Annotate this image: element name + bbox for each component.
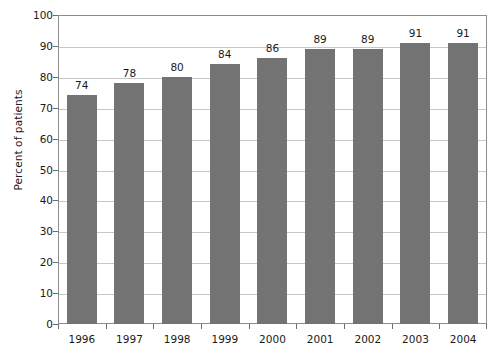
x-tick-label: 1999 [201,333,249,345]
x-tick-mark [58,324,59,329]
bar [257,58,287,324]
bar [210,64,240,324]
x-tick-label: 2003 [392,333,440,345]
bar [114,83,144,324]
bar [448,43,478,324]
y-tick-label: 30 [9,226,53,236]
y-tick-label: 0 [9,319,53,329]
x-tick-mark [201,324,202,329]
y-tick-label: 70 [9,103,53,113]
x-tick-mark [106,324,107,329]
y-tick-label: 40 [9,195,53,205]
bar [400,43,430,324]
x-tick-label: 2004 [439,333,487,345]
bar-value-label: 89 [313,34,326,45]
x-axis: 199619971998199920002001200220032004 [58,324,487,348]
x-tick-mark [392,324,393,329]
bar [162,77,192,324]
bar-value-label: 78 [123,68,136,79]
bar-group: 89 [296,15,344,324]
bar-group: 84 [201,15,249,324]
bar-group: 89 [344,15,392,324]
y-tick-label: 50 [9,165,53,175]
bar-group: 80 [153,15,201,324]
x-tick-label: 1998 [153,333,201,345]
y-tick-label: 100 [9,10,53,20]
x-tick-label: 1996 [58,333,106,345]
x-tick-mark [249,324,250,329]
bar [67,95,97,324]
bar-value-label: 89 [361,34,374,45]
bar-value-label: 80 [170,62,183,73]
x-tick-label: 2001 [296,333,344,345]
x-tick-label: 2000 [249,333,297,345]
x-tick-mark [486,324,487,329]
bar-group: 86 [249,15,297,324]
bar-value-label: 74 [75,80,88,91]
x-tick-mark [153,324,154,329]
bar [353,49,383,324]
bar-group: 91 [439,15,487,324]
x-tick-mark [344,324,345,329]
bars-layer: 747880848689899191 [58,15,487,324]
bar-group: 91 [392,15,440,324]
bar-value-label: 91 [456,28,469,39]
bar-value-label: 86 [266,43,279,54]
bar-group: 74 [58,15,106,324]
bar-value-label: 91 [409,28,422,39]
y-tick-label: 20 [9,257,53,267]
x-tick-mark [439,324,440,329]
y-tick-label: 60 [9,134,53,144]
x-tick-mark [296,324,297,329]
y-tick-label: 80 [9,72,53,82]
bar-value-label: 84 [218,49,231,60]
x-tick-label: 1997 [106,333,154,345]
y-tick-label: 90 [9,41,53,51]
y-tick-label: 10 [9,288,53,298]
bar-chart: Percent of patients 10090807060504030201… [0,0,499,348]
bar [305,49,335,324]
x-tick-label: 2002 [344,333,392,345]
bar-group: 78 [106,15,154,324]
